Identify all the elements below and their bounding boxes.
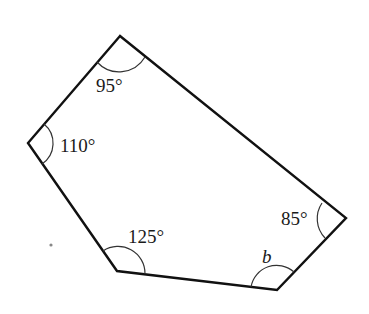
pentagon-outline xyxy=(28,36,346,290)
angle-label-bottom-left: 125° xyxy=(128,226,164,247)
stray-dot xyxy=(49,243,52,246)
angle-arc-left xyxy=(42,124,53,164)
angle-label-bottom-right: b xyxy=(262,246,272,267)
angle-arc-bottom-right xyxy=(251,265,294,287)
angle-label-right: 85° xyxy=(281,208,308,229)
angle-arc-top xyxy=(97,57,145,72)
pentagon-diagram: 95° 110° 125° b 85° xyxy=(0,0,369,314)
angle-arc-right xyxy=(317,203,325,238)
angle-label-left: 110° xyxy=(60,135,95,156)
angle-label-top: 95° xyxy=(96,75,123,96)
